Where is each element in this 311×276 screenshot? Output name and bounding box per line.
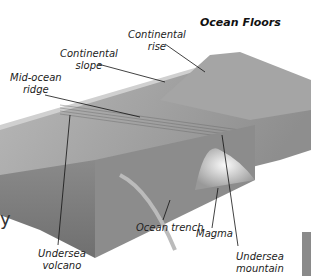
label-continental-slope: Continental slope xyxy=(60,48,118,72)
diagram-title: Ocean Floors xyxy=(200,16,281,29)
label-magma: Magma xyxy=(196,228,233,240)
label-ocean-trench: Ocean trench xyxy=(136,222,204,234)
left-cross-section xyxy=(0,160,95,258)
cropped-text-fragment: y xyxy=(0,208,11,229)
edge-block xyxy=(302,232,311,276)
label-undersea-mountain: Undersea mountain xyxy=(236,251,284,275)
label-undersea-volcano: Undersea volcano xyxy=(38,248,86,272)
label-continental-rise: Continental rise xyxy=(128,29,186,53)
label-mid-ocean-ridge: Mid-ocean ridge xyxy=(10,72,62,96)
